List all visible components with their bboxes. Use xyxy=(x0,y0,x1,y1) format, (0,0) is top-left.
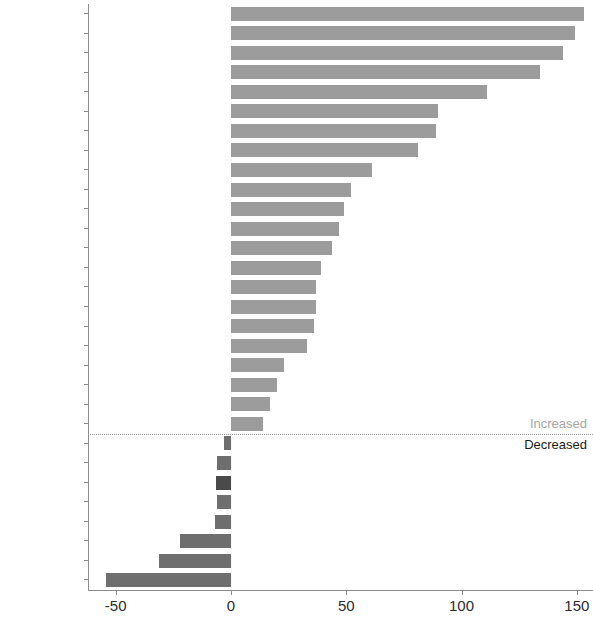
bar-row: Croatia xyxy=(88,375,593,395)
bar-finland xyxy=(231,163,372,177)
x-axis-label-0: 0 xyxy=(227,597,235,614)
bar-sweden xyxy=(215,515,231,529)
bar-row: Latvia xyxy=(88,43,593,63)
x-axis-tick xyxy=(231,590,232,595)
y-axis-tick xyxy=(84,208,88,209)
y-axis-tick xyxy=(84,365,88,366)
x-axis-label-neg50: -50 xyxy=(105,597,127,614)
plot-area: CyprusLithuaniaLatviaEstoniaBulgariaFran… xyxy=(88,4,593,590)
bar-row: Netherlands xyxy=(88,356,593,376)
bar-row: Norway xyxy=(88,219,593,239)
x-axis-spine xyxy=(88,590,593,591)
y-axis-tick xyxy=(84,540,88,541)
y-axis-tick xyxy=(84,228,88,229)
bar-ireland xyxy=(231,261,321,275)
bar-croatia xyxy=(231,378,277,392)
bar-row: Cyprus xyxy=(88,4,593,24)
bar-lithuania xyxy=(231,26,575,40)
x-axis-tick xyxy=(577,590,578,595)
y-axis-tick xyxy=(84,560,88,561)
bar-cyprus xyxy=(231,7,584,21)
y-axis-tick xyxy=(84,306,88,307)
x-axis-label-50: 50 xyxy=(338,597,355,614)
bar-luxembourg xyxy=(180,534,231,548)
increase-decrease-divider xyxy=(88,434,593,435)
bar-australia xyxy=(216,476,231,490)
bar-row: UK xyxy=(88,453,593,473)
y-axis-tick xyxy=(84,52,88,53)
bar-row: Lithuania xyxy=(88,24,593,44)
y-axis-tick xyxy=(84,345,88,346)
bar-row: Luxembourg xyxy=(88,531,593,551)
bar-row: Bulgaria xyxy=(88,82,593,102)
y-axis-tick xyxy=(84,286,88,287)
y-axis-tick xyxy=(84,189,88,190)
bar-us xyxy=(217,495,231,509)
y-axis-tick xyxy=(84,384,88,385)
x-axis-tick xyxy=(462,590,463,595)
bar-row: Poland xyxy=(88,297,593,317)
y-axis-tick xyxy=(84,267,88,268)
y-axis-tick xyxy=(84,33,88,34)
bar-new-zealand xyxy=(231,397,270,411)
bar-uk xyxy=(217,456,231,470)
x-axis-tick xyxy=(346,590,347,595)
bar-estonia xyxy=(231,65,540,79)
bar-row: Japan xyxy=(88,121,593,141)
y-axis-tick xyxy=(84,521,88,522)
bar-chart: CyprusLithuaniaLatviaEstoniaBulgariaFran… xyxy=(0,0,593,622)
bar-row: New Zealand xyxy=(88,395,593,415)
y-axis-tick xyxy=(84,579,88,580)
bar-row: Portugal xyxy=(88,141,593,161)
bar-germany xyxy=(231,339,307,353)
y-axis-tick xyxy=(84,150,88,151)
bar-row: Denmark xyxy=(88,238,593,258)
bar-row: Finland xyxy=(88,160,593,180)
y-axis-tick xyxy=(84,501,88,502)
bar-row: Estonia xyxy=(88,63,593,83)
bar-france xyxy=(231,104,439,118)
bar-bulgaria xyxy=(231,85,487,99)
y-axis-tick xyxy=(84,404,88,405)
bar-row: Spain xyxy=(88,317,593,337)
bar-row: Switzerland xyxy=(88,414,593,434)
bar-canada xyxy=(224,436,231,450)
y-axis-tick xyxy=(84,72,88,73)
x-axis-label-150: 150 xyxy=(564,597,589,614)
bar-row: Germany xyxy=(88,336,593,356)
bar-austria xyxy=(231,183,351,197)
bar-japan xyxy=(231,124,436,138)
bar-row: France xyxy=(88,102,593,122)
bar-latvia xyxy=(231,46,563,60)
bar-denmark xyxy=(231,241,332,255)
bar-row: Sweden xyxy=(88,512,593,532)
y-axis-tick xyxy=(84,482,88,483)
bar-row: Czechia xyxy=(88,551,593,571)
y-axis-tick xyxy=(84,169,88,170)
bar-row: Ireland xyxy=(88,258,593,278)
y-axis-tick xyxy=(84,111,88,112)
y-axis-tick xyxy=(84,247,88,248)
bar-row: Chile xyxy=(88,277,593,297)
bar-hungary xyxy=(231,202,344,216)
bar-row: Hungary xyxy=(88,199,593,219)
y-axis-tick xyxy=(84,443,88,444)
y-axis-tick xyxy=(84,13,88,14)
y-axis-tick xyxy=(84,91,88,92)
bar-chile xyxy=(231,280,316,294)
y-axis-tick xyxy=(84,462,88,463)
bar-row: Austria xyxy=(88,180,593,200)
bar-row: Australia xyxy=(88,473,593,493)
annotation-increased: Increased xyxy=(530,416,587,431)
bar-row: Iceland xyxy=(88,570,593,590)
bar-switzerland xyxy=(231,417,263,431)
bar-portugal xyxy=(231,143,418,157)
x-axis-tick xyxy=(116,590,117,595)
bar-spain xyxy=(231,319,314,333)
bar-netherlands xyxy=(231,358,284,372)
bar-norway xyxy=(231,222,339,236)
bar-row: Canada xyxy=(88,434,593,454)
y-axis-tick xyxy=(84,423,88,424)
y-axis-tick xyxy=(84,326,88,327)
annotation-decreased: Decreased xyxy=(524,437,587,452)
